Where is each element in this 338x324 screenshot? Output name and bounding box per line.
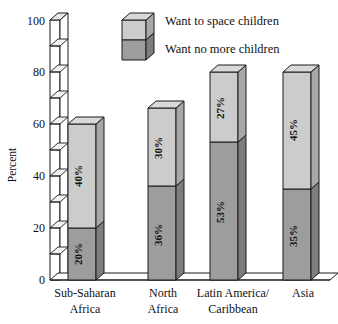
bar-value-no-more: 20% bbox=[72, 243, 84, 265]
y-axis-tick-labels: 0 20 40 60 80 100 bbox=[27, 14, 45, 287]
bar-segment-no-more-side bbox=[238, 135, 246, 280]
chart-container: Percent 0 20 40 60 80 100 bbox=[0, 0, 338, 324]
bar-value-space: 27% bbox=[214, 97, 226, 119]
y-tick-80: 80 bbox=[33, 65, 45, 79]
legend-label-no-more: Want no more children bbox=[165, 42, 280, 56]
y-axis-3d-column bbox=[50, 13, 68, 280]
bar-segment-space-side bbox=[238, 65, 246, 142]
legend-swatch-light bbox=[122, 20, 146, 40]
y-tick-100: 100 bbox=[27, 14, 45, 28]
bar-group-north-africa[interactable]: 36% 30% bbox=[148, 101, 184, 280]
chart-legend: Want to space children Want no more chil… bbox=[122, 13, 280, 60]
bar-value-no-more: 36% bbox=[152, 224, 164, 246]
bar-segment-space-side bbox=[176, 101, 184, 186]
legend-swatch-3d-box bbox=[122, 13, 154, 60]
legend-swatch-dark bbox=[122, 40, 146, 60]
y-axis-title: Percent bbox=[6, 147, 18, 182]
bar-segment-no-more-side bbox=[311, 182, 319, 280]
x-label-sub-saharan-africa-line2: Africa bbox=[70, 302, 101, 316]
bar-segment-no-more-side bbox=[96, 221, 104, 280]
x-label-latin-america-caribbean-line2: Caribbean bbox=[208, 302, 257, 316]
x-label-north-africa-line2: Africa bbox=[148, 302, 179, 316]
bar-value-space: 45% bbox=[287, 119, 299, 141]
bar-value-space: 40% bbox=[72, 165, 84, 187]
x-label-sub-saharan-africa-line1: Sub-Saharan bbox=[54, 286, 115, 300]
y-tick-60: 60 bbox=[33, 117, 45, 131]
bar-segment-space-side bbox=[311, 65, 319, 189]
bar-segment-space-side bbox=[96, 117, 104, 228]
bar-group-asia[interactable]: 35% 45% bbox=[283, 65, 319, 280]
x-label-latin-america-caribbean-line1: Latin America/ bbox=[197, 286, 270, 300]
x-axis-category-labels: Sub-Saharan Africa North Africa Latin Am… bbox=[54, 286, 314, 316]
bar-segment-no-more-side bbox=[176, 179, 184, 280]
y-tick-0: 0 bbox=[39, 273, 45, 287]
y-tick-40: 40 bbox=[33, 169, 45, 183]
bar-value-no-more: 53% bbox=[214, 201, 226, 223]
x-label-north-africa-line1: North bbox=[149, 286, 177, 300]
bar-chart-svg: Percent 0 20 40 60 80 100 bbox=[0, 0, 338, 324]
y-tick-20: 20 bbox=[33, 221, 45, 235]
bar-group-latin-america-caribbean[interactable]: 53% 27% bbox=[210, 65, 246, 280]
bar-value-space: 30% bbox=[152, 137, 164, 159]
x-label-asia: Asia bbox=[292, 286, 315, 300]
bar-value-no-more: 35% bbox=[287, 225, 299, 247]
legend-label-space: Want to space children bbox=[165, 14, 280, 28]
bar-group-sub-saharan-africa[interactable]: 20% 40% bbox=[68, 117, 104, 280]
